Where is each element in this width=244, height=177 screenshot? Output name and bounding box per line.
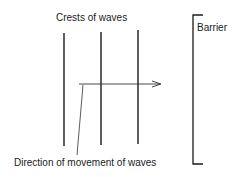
barrier-bracket — [193, 15, 203, 164]
wave-diagram: Crests of waves Direction of movement of… — [0, 0, 244, 177]
direction-label: Direction of movement of waves — [14, 157, 156, 168]
barrier-label: Barrier — [197, 22, 228, 33]
crests-label: Crests of waves — [56, 12, 127, 23]
direction-leader-line — [77, 85, 83, 155]
